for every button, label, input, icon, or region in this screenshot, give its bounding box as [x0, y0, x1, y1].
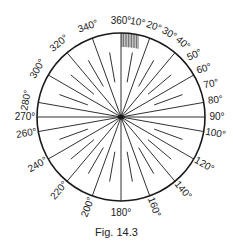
figure-caption: Fig. 14.3 [0, 226, 233, 238]
degree-label: 90° [209, 111, 224, 122]
degree-label: 280° [18, 89, 32, 111]
degree-label: 260° [15, 126, 37, 140]
degree-label: 20° [145, 18, 163, 34]
degree-label: 100° [205, 126, 227, 140]
polar-degree-diagram: 360°10°20°30°40°50°60°70°80°90°100°120°1… [0, 0, 233, 247]
degree-label: 120° [193, 154, 216, 174]
degree-label: 270° [15, 111, 36, 122]
hatched-sector [122, 33, 138, 49]
degree-label: 40° [174, 34, 193, 52]
degree-label: 60° [195, 61, 213, 76]
degree-label: 70° [202, 76, 219, 90]
degree-label: 180° [111, 207, 132, 218]
degree-label: 320° [47, 32, 70, 54]
degree-label: 80° [207, 93, 223, 106]
degree-label: 140° [173, 179, 195, 202]
degree-label: 240° [26, 154, 49, 174]
degree-label: 340° [76, 17, 99, 34]
degree-label: 360° [111, 15, 132, 26]
degree-label: 300° [27, 57, 47, 80]
degree-label: 160° [146, 195, 163, 218]
degree-label: 10° [129, 15, 146, 28]
degree-label: 220° [48, 179, 70, 202]
center-point [118, 114, 123, 119]
degree-label: 200° [79, 195, 96, 218]
